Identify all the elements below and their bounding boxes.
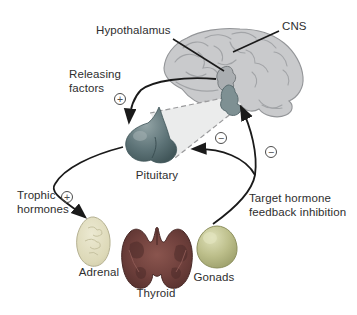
pituitary-label: Pituitary [127,169,187,183]
thyroid-label: Thyroid [128,287,184,301]
diagram-canvas [0,0,357,315]
endocrine-axis-diagram: Hypothalamus CNS Releasing factors Troph… [0,0,357,315]
gonads-label: Gonads [186,271,242,285]
releasing-factors-label: Releasing factors [69,68,121,95]
gonads-illustration [197,226,237,268]
adrenal-illustration [77,217,110,266]
target-feedback-label: Target hormone feedback inhibition [249,192,346,219]
feedback-to-pituitary-arrow [193,149,255,175]
minus-sign-pituitary-feedback: − [215,132,227,144]
minus-sign-cns-feedback: − [265,146,277,158]
cns-label: CNS [282,20,307,34]
adrenal-label: Adrenal [71,266,127,280]
plus-sign-releasing: + [114,93,126,105]
plus-sign-trophic: + [61,191,73,203]
thyroid-illustration [122,227,193,288]
hypothalamus-label: Hypothalamus [96,24,171,38]
